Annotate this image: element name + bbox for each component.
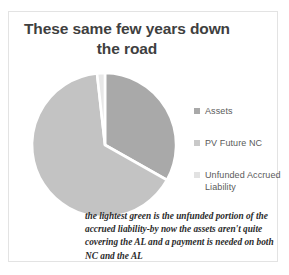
legend-swatch-unfunded-accrued-liability <box>194 172 200 178</box>
legend-label-pv-future-nc: PV Future NC <box>205 137 262 149</box>
legend-label-assets: Assets <box>205 105 233 117</box>
chart-title: These same few years down the road <box>21 19 233 60</box>
pie-chart-svg <box>17 61 177 221</box>
chart-legend: Assets PV Future NC Unfunded Accrued Lia… <box>194 105 289 214</box>
pie-chart-plot-area <box>17 61 177 221</box>
legend-swatch-assets <box>194 108 200 114</box>
legend-swatch-pv-future-nc <box>194 140 200 146</box>
legend-item-unfunded-accrued-liability[interactable]: Unfunded Accrued Liability <box>194 169 289 193</box>
legend-label-unfunded-accrued-liability: Unfunded Accrued Liability <box>205 169 289 193</box>
chart-annotation-text: the lightest green is the unfunded porti… <box>85 210 281 263</box>
chart-container: These same few years down the road Asset… <box>8 11 278 262</box>
legend-item-assets[interactable]: Assets <box>194 105 289 117</box>
legend-item-pv-future-nc[interactable]: PV Future NC <box>194 137 289 149</box>
